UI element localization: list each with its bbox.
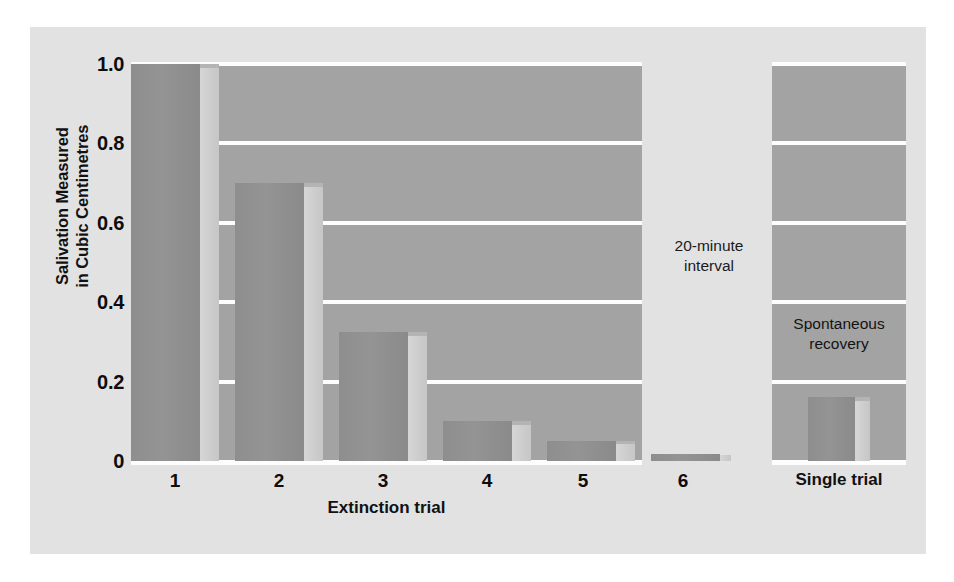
chart-figure: Salivation Measured in Cubic Centimetres… (0, 0, 954, 582)
bar-trial-3[interactable] (339, 332, 427, 461)
bar-single-trial[interactable] (808, 397, 870, 461)
bar-top-face (408, 332, 427, 336)
recovery-annotation: Spontaneous recovery (772, 314, 906, 354)
x-tick-1: 1 (155, 470, 195, 492)
y-tick-0-6: 0.6 (62, 212, 124, 235)
x-axis-title: Extinction trial (131, 498, 642, 518)
bar-top-face (304, 183, 323, 187)
recovery-annotation-line1: Spontaneous (793, 315, 884, 332)
bar-trial-6-visible[interactable] (651, 454, 731, 461)
bar-side-face (408, 336, 427, 461)
single-trial-label: Single trial (740, 470, 938, 490)
interval-annotation-line1: 20-minute (675, 237, 744, 254)
y-axis-ticks: 1.0 0.8 0.6 0.4 0.2 0 (62, 50, 124, 480)
y-tick-0: 0 (62, 450, 124, 473)
bar-trial-5[interactable] (547, 441, 635, 461)
bar-front-face (339, 332, 408, 461)
bar-front-face (235, 183, 304, 461)
interval-annotation-line2: interval (684, 257, 734, 274)
gridline-right-0-8 (772, 141, 906, 145)
gridline-right-1-0 (772, 62, 906, 66)
recovery-plot-area: Spontaneous recovery (772, 64, 906, 461)
gridline-right-0-6 (772, 221, 906, 225)
bar-front-face (808, 397, 855, 461)
bar-front-face (547, 441, 616, 461)
bar-side-face (512, 425, 531, 461)
y-tick-1-0: 1.0 (62, 53, 124, 76)
bar-top-face (855, 397, 870, 401)
bar-trial-4[interactable] (443, 421, 531, 461)
gridline-right-0-2 (772, 380, 906, 384)
recovery-annotation-line2: recovery (809, 335, 868, 352)
bar-front-face (131, 64, 200, 461)
bar-trial-2[interactable] (235, 183, 323, 461)
bar-top-face (200, 64, 219, 68)
bar-top-face (616, 441, 635, 444)
bar-side-face (616, 444, 635, 461)
x-tick-3: 3 (363, 470, 403, 492)
bar-side-face (304, 187, 323, 461)
bar-side-face (200, 68, 219, 461)
main-plot-area (131, 64, 642, 461)
bar-side-face (720, 455, 731, 461)
x-tick-2: 2 (259, 470, 299, 492)
bar-side-face (855, 401, 870, 461)
interval-annotation: 20-minute interval (648, 236, 770, 276)
bar-top-face (512, 421, 531, 425)
y-tick-0-4: 0.4 (62, 291, 124, 314)
y-tick-0-2: 0.2 (62, 371, 124, 394)
bar-trial-1[interactable] (131, 64, 219, 461)
x-tick-4: 4 (467, 470, 507, 492)
bar-front-face (443, 421, 512, 461)
x-axis-ticks: 1 2 3 4 5 6 (131, 470, 642, 500)
x-tick-6: 6 (663, 470, 703, 492)
bar-front-face (651, 454, 720, 461)
x-tick-5: 5 (563, 470, 603, 492)
gridline-right-0-4 (772, 300, 906, 304)
y-tick-0-8: 0.8 (62, 132, 124, 155)
